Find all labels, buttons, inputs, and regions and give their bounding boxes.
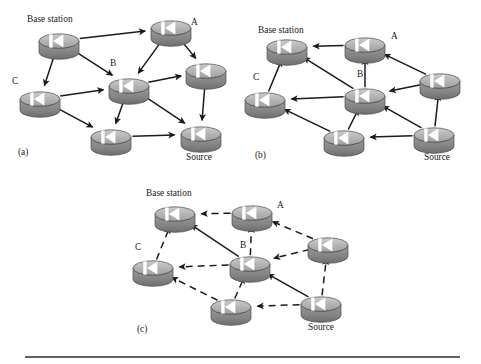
node-glyph-bar	[311, 297, 314, 310]
node-glyph-bar	[355, 89, 358, 102]
node-glyph-bar	[430, 74, 433, 87]
node-right	[186, 64, 226, 90]
node-c	[20, 92, 60, 118]
edge-a-bs	[313, 46, 343, 47]
label-b: B	[110, 58, 116, 68]
node-base-station	[155, 207, 195, 233]
label-b: B	[357, 69, 363, 79]
node-glyph-bar	[318, 238, 321, 251]
node-glyph-bar	[143, 261, 146, 274]
label-source: Source	[308, 322, 334, 332]
node-b	[230, 257, 270, 283]
panel-tag-a: (a)	[18, 147, 28, 158]
node-source	[414, 128, 454, 154]
label-c: C	[12, 76, 18, 86]
node-glyph-bar	[30, 92, 33, 105]
node-a	[232, 206, 272, 232]
node-lower	[211, 300, 251, 326]
node-a	[151, 21, 191, 47]
node-lower	[91, 130, 131, 156]
label-base-station: Base station	[27, 14, 73, 24]
label-base-station: Base station	[146, 188, 192, 198]
node-b	[109, 79, 149, 105]
node-glyph-bar	[119, 79, 122, 92]
node-a	[345, 38, 385, 64]
panel-tag-b: (b)	[255, 150, 266, 161]
label-a: A	[191, 17, 198, 27]
node-lower	[324, 131, 364, 157]
label-a: A	[277, 200, 284, 210]
node-glyph-bar	[242, 206, 245, 219]
label-source: Source	[424, 152, 450, 162]
node-b	[345, 89, 385, 115]
node-glyph-bar	[191, 127, 194, 140]
node-glyph-bar	[165, 207, 168, 220]
node-glyph-bar	[355, 38, 358, 51]
panel-tag-c: (c)	[137, 324, 147, 335]
label-c: C	[135, 242, 141, 252]
node-source	[301, 297, 341, 323]
node-glyph-bar	[221, 300, 224, 313]
node-right	[420, 74, 460, 100]
label-base-station: Base station	[258, 25, 304, 35]
node-glyph-bar	[161, 21, 164, 34]
node-c	[245, 93, 285, 119]
label-a: A	[391, 31, 398, 41]
node-glyph-bar	[101, 130, 104, 143]
node-glyph-bar	[240, 257, 243, 270]
node-glyph-bar	[49, 34, 52, 47]
node-glyph-bar	[255, 93, 258, 106]
node-base-station	[267, 40, 307, 66]
node-right	[308, 238, 348, 264]
figure-canvas: Base stationABCSource(a)Base stationABCS…	[0, 0, 481, 364]
node-glyph-bar	[334, 131, 337, 144]
label-b: B	[240, 240, 246, 250]
node-source	[181, 127, 221, 153]
node-glyph-bar	[196, 64, 199, 77]
figure-root: Base stationABCSource(a)Base stationABCS…	[0, 0, 481, 364]
label-source: Source	[186, 152, 212, 162]
node-base-station	[39, 34, 79, 60]
label-c: C	[253, 72, 259, 82]
node-c	[133, 261, 173, 287]
node-glyph-bar	[424, 128, 427, 141]
node-glyph-bar	[277, 40, 280, 53]
